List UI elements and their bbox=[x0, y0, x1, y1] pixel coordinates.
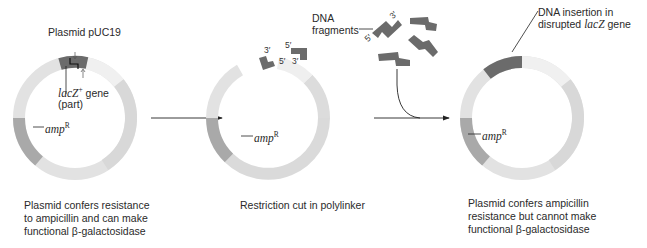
insert-label-gene: lacZ bbox=[584, 18, 604, 30]
caption-1-line: to ampicillin and can make bbox=[24, 212, 149, 225]
amp-text: amp bbox=[45, 123, 65, 135]
end-label-5prime-right: 5′ bbox=[285, 40, 291, 50]
insert-label-pre: disrupted bbox=[538, 18, 584, 30]
insert-label-post: gene bbox=[605, 18, 631, 30]
amp-sup: R bbox=[274, 130, 279, 139]
cut-plasmid-ring bbox=[212, 63, 324, 174]
amp-label-3: ampR bbox=[482, 127, 507, 142]
amp-text: amp bbox=[482, 130, 502, 142]
caption-3-line: Plasmid confers ampicillin bbox=[468, 197, 596, 210]
amp-sup: R bbox=[65, 121, 70, 130]
caption-1: Plasmid confers resistance to ampicillin… bbox=[24, 199, 149, 238]
cut-end-left bbox=[259, 56, 275, 70]
insert-label-line2: disrupted lacZ gene bbox=[538, 18, 631, 30]
end-label-5prime-left: 5′ bbox=[279, 56, 285, 66]
amp-sup: R bbox=[502, 128, 507, 137]
caption-1-line: functional β-galactosidase bbox=[24, 225, 149, 238]
amp-label-2: ampR bbox=[254, 129, 279, 144]
lacz-part-label: (part) bbox=[58, 98, 83, 110]
fragments-label-line: DNA bbox=[312, 12, 359, 24]
amp-segment bbox=[19, 118, 39, 161]
insert-segment bbox=[487, 62, 522, 74]
dna-fragments bbox=[372, 17, 438, 66]
plasmid-title: Plasmid pUC19 bbox=[48, 26, 121, 38]
caption-3: Plasmid confers ampicillin resistance bu… bbox=[468, 197, 596, 236]
lacz-gene-name: lacZ bbox=[58, 87, 78, 99]
end-label-3prime-left: 3′ bbox=[264, 45, 270, 55]
plasmid-puc19-ring bbox=[19, 58, 131, 174]
caption-3-line: resistance but cannot make bbox=[468, 210, 596, 223]
caption-3-line: functional β-galactosidase bbox=[468, 223, 596, 236]
lacz-gene-word: gene bbox=[83, 87, 109, 99]
recombinant-plasmid-ring bbox=[466, 62, 578, 174]
caption-2-line: Restriction cut in polylinker bbox=[240, 199, 365, 212]
insert-label: DNA insertion in disrupted lacZ gene bbox=[538, 6, 631, 30]
insert-leader bbox=[512, 11, 538, 52]
caption-1-line: Plasmid confers resistance bbox=[24, 199, 149, 212]
fragments-label: DNA fragments bbox=[312, 12, 359, 36]
amp-text: amp bbox=[254, 132, 274, 144]
curve-arrow bbox=[397, 69, 420, 118]
caption-2: Restriction cut in polylinker bbox=[240, 199, 365, 212]
insert-label-line1: DNA insertion in bbox=[538, 6, 631, 18]
amp-label-1: ampR bbox=[45, 120, 70, 135]
amp-segment bbox=[212, 118, 229, 158]
end-label-3prime-right: 3′ bbox=[292, 56, 298, 66]
lacz-gene-label: lacZ+ gene bbox=[58, 84, 109, 99]
fragments-label-line: fragments bbox=[312, 24, 359, 36]
